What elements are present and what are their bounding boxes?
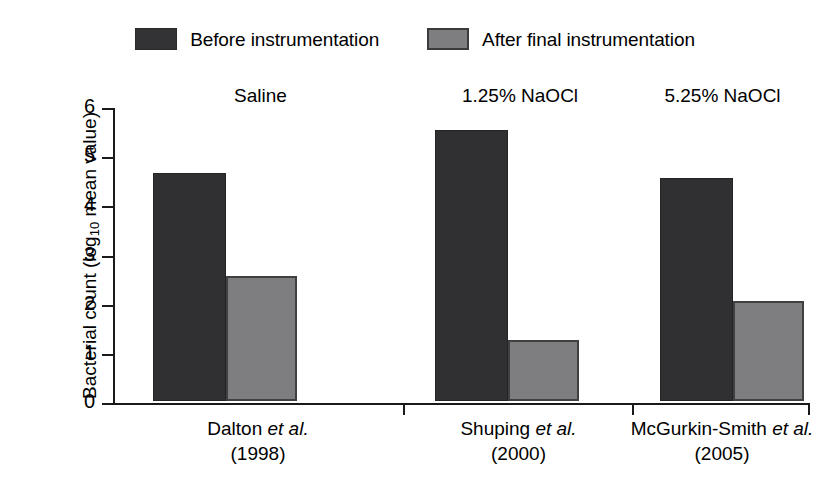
bar-before-naocl-125 <box>435 130 508 401</box>
group-heading-naocl-125: 1.25% NaOCl <box>408 86 632 106</box>
bar-chart-figure: Before instrumentation After final instr… <box>0 0 830 485</box>
category-label-mcgurkin-smith: McGurkin-Smith et al. (2005) <box>594 416 830 466</box>
y-tick-label-3: 3 <box>75 244 95 264</box>
category-year-dalton: (1998) <box>113 441 403 466</box>
x-separator-tick-2 <box>632 403 634 415</box>
y-tick-0: 0 <box>102 403 113 405</box>
y-tick-label-0: 0 <box>75 391 95 411</box>
y-axis-title-subscript: 10 <box>87 222 102 236</box>
legend-swatch-after <box>427 28 469 50</box>
bar-after-naocl-125 <box>508 340 579 401</box>
y-tick-4: 4 <box>102 206 113 208</box>
y-tick-label-1: 1 <box>75 342 95 362</box>
legend-label-before: Before instrumentation <box>190 30 379 49</box>
y-tick-3: 3 <box>102 256 113 258</box>
legend-label-after: After final instrumentation <box>482 30 695 49</box>
group-heading-saline: Saline <box>118 86 403 106</box>
group-heading-naocl-525: 5.25% NaOCl <box>637 86 808 106</box>
bar-after-naocl-525 <box>733 301 804 401</box>
category-name-dalton: Dalton <box>207 418 262 439</box>
category-etal-shuping: et al. <box>535 418 576 439</box>
bar-before-naocl-525 <box>660 178 733 401</box>
y-axis-line <box>113 108 115 405</box>
category-name-mcgurkin-smith: McGurkin-Smith <box>631 418 767 439</box>
chart-legend: Before instrumentation After final instr… <box>0 18 830 60</box>
plot-area: Bacterial count (log10 mean value) 6 5 4… <box>113 108 810 403</box>
y-tick-label-2: 2 <box>75 293 95 313</box>
y-tick-label-5: 5 <box>75 145 95 165</box>
y-tick-label-4: 4 <box>75 194 95 214</box>
y-tick-1: 1 <box>102 354 113 356</box>
bar-before-saline <box>153 173 226 401</box>
y-tick-5: 5 <box>102 157 113 159</box>
category-etal-dalton: et al. <box>268 418 309 439</box>
category-year-mcgurkin-smith: (2005) <box>594 441 830 466</box>
x-axis-end-tick <box>808 403 810 415</box>
bar-after-saline <box>226 276 297 401</box>
y-tick-label-6: 6 <box>75 96 95 116</box>
legend-swatch-before <box>135 28 177 50</box>
category-name-shuping: Shuping <box>460 418 530 439</box>
category-etal-mcgurkin-smith: et al. <box>772 418 813 439</box>
x-separator-tick-1 <box>403 403 405 415</box>
x-axis-line <box>113 403 810 405</box>
y-tick-2: 2 <box>102 305 113 307</box>
category-label-dalton: Dalton et al. (1998) <box>113 416 403 466</box>
y-tick-6: 6 <box>102 108 113 110</box>
legend-entry-after: After final instrumentation <box>427 28 695 50</box>
legend-entry-before: Before instrumentation <box>135 28 379 50</box>
